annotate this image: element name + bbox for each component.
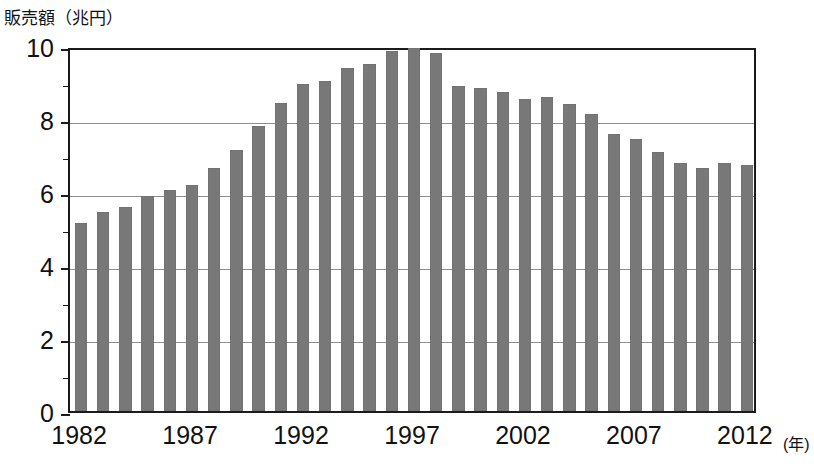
x-axis-label-1982: 1982 (51, 423, 107, 448)
bar (319, 81, 331, 411)
y-axis-label-8: 8 (0, 109, 54, 134)
bar (141, 196, 153, 411)
y-tick-10 (61, 49, 70, 51)
bar (630, 139, 642, 411)
bar (186, 185, 198, 411)
bar (497, 92, 509, 411)
bar (341, 68, 353, 411)
x-axis-label-2007: 2007 (606, 423, 662, 448)
bar (608, 134, 620, 411)
bar (585, 114, 597, 411)
bar (252, 126, 264, 411)
bar (452, 86, 464, 411)
bar (297, 84, 309, 411)
x-axis-label-1987: 1987 (162, 423, 218, 448)
plot-area (68, 48, 756, 413)
bar (386, 51, 398, 411)
bar (652, 152, 664, 411)
y-axis-title: 販売額（兆円） (4, 4, 123, 29)
bar (541, 97, 553, 411)
bar (275, 103, 287, 411)
y-axis-label-6: 6 (0, 182, 54, 207)
bar (75, 223, 87, 411)
chart-container: 販売額（兆円） 0246810 (年) 19821987199219972002… (0, 0, 814, 466)
y-axis-label-4: 4 (0, 255, 54, 280)
y-minor-tick-7 (63, 159, 70, 161)
y-minor-tick-1 (63, 378, 70, 380)
y-tick-4 (61, 268, 70, 270)
bar (164, 190, 176, 411)
bar (519, 99, 531, 411)
bar (741, 165, 753, 411)
bar (119, 207, 131, 411)
bar (363, 64, 375, 411)
x-axis-labels: (年) 1982198719921997200220072012 (0, 413, 814, 466)
y-minor-tick-5 (63, 232, 70, 234)
bar (230, 150, 242, 411)
x-axis-label-2012: 2012 (717, 423, 773, 448)
x-axis-label-1992: 1992 (273, 423, 329, 448)
bar (674, 163, 686, 411)
x-axis-label-2002: 2002 (495, 423, 551, 448)
y-axis-label-10: 10 (0, 36, 54, 61)
bar (474, 88, 486, 411)
bar (408, 48, 420, 411)
y-axis-label-2: 2 (0, 328, 54, 353)
y-tick-2 (61, 341, 70, 343)
bar (97, 212, 109, 411)
bar (208, 168, 220, 411)
bar (563, 104, 575, 411)
bar (718, 163, 730, 411)
y-minor-tick-9 (63, 86, 70, 88)
x-axis-unit: (年) (783, 431, 810, 455)
y-minor-tick-3 (63, 305, 70, 307)
y-tick-6 (61, 195, 70, 197)
bar (430, 53, 442, 411)
x-axis-label-1997: 1997 (384, 423, 440, 448)
bar (696, 168, 708, 411)
bar-series (70, 50, 754, 411)
y-tick-8 (61, 122, 70, 124)
